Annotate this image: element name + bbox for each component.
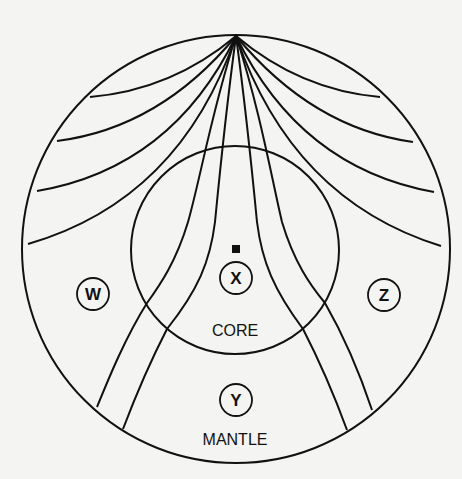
point-y-label: Y: [230, 391, 242, 410]
wave-paths-core-crossing: [97, 36, 372, 430]
point-z-label: Z: [379, 286, 389, 305]
point-y: Y: [220, 384, 252, 416]
point-z: Z: [368, 279, 400, 311]
wave-paths-right-mantle: [236, 36, 441, 246]
point-w-label: W: [85, 285, 102, 304]
point-w: W: [77, 278, 109, 310]
mantle-label: MANTLE: [203, 431, 268, 448]
wave-paths-left-mantle: [28, 36, 236, 244]
core-label: CORE: [212, 322, 258, 339]
wave-path: [236, 36, 413, 142]
earth-interior-diagram: X W Z Y CORE MANTLE: [0, 0, 462, 479]
point-x: X: [220, 262, 252, 294]
point-x-label: X: [230, 269, 242, 288]
wave-path: [57, 36, 236, 141]
source-marker-square: [232, 245, 240, 253]
